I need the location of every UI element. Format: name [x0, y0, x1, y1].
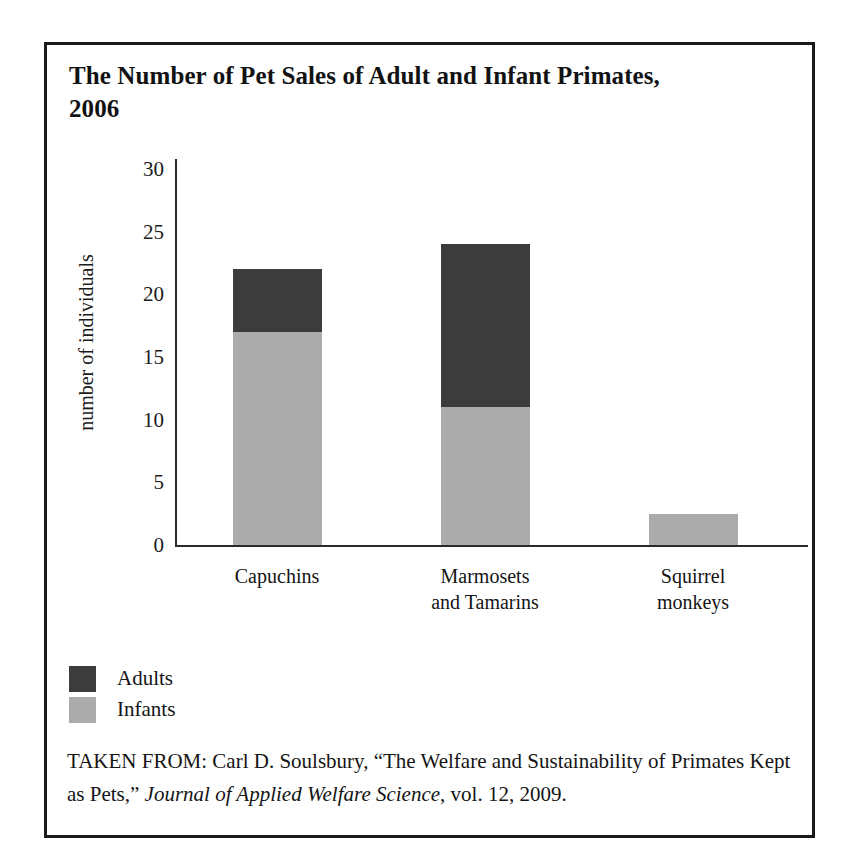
stacked-bar[interactable]	[233, 269, 322, 545]
stacked-bar[interactable]	[649, 514, 738, 545]
legend-item: Adults	[69, 663, 175, 694]
legend-label: Infants	[117, 697, 175, 722]
x-axis-line	[175, 545, 808, 547]
y-tick-label: 25	[143, 221, 164, 242]
y-tick-label: 10	[143, 409, 164, 430]
bar-segment-infants[interactable]	[441, 407, 530, 545]
bar-segment-infants[interactable]	[233, 332, 322, 545]
legend-swatch-adults	[69, 666, 96, 692]
y-axis-title: number of individuals	[75, 213, 98, 473]
bar-segment-adults[interactable]	[441, 244, 530, 407]
stacked-bar[interactable]	[441, 244, 530, 545]
figure-frame: The Number of Pet Sales of Adult and Inf…	[44, 42, 815, 838]
y-tick-label: 0	[154, 535, 165, 556]
bar-group: Marmosetsand Tamarins	[405, 169, 565, 545]
bar-segment-adults[interactable]	[233, 269, 322, 332]
y-tick-label: 20	[143, 284, 164, 305]
source-citation: TAKEN FROM: Carl D. Soulsbury, “The Welf…	[67, 745, 795, 811]
x-axis-category-label: Capuchins	[183, 563, 371, 589]
bar-group: Capuchins	[197, 169, 357, 545]
chart-legend: AdultsInfants	[69, 663, 175, 725]
axes: 051015202530 CapuchinsMarmosetsand Tamar…	[175, 159, 812, 555]
x-axis-category-label: Marmosetsand Tamarins	[391, 563, 579, 615]
bars-layer: CapuchinsMarmosetsand TamarinsSquirrelmo…	[177, 169, 808, 545]
legend-item: Infants	[69, 694, 175, 725]
y-tick-label: 5	[154, 472, 165, 493]
bar-segment-infants[interactable]	[649, 514, 738, 545]
legend-swatch-infants	[69, 697, 96, 723]
y-tick-label: 15	[143, 347, 164, 368]
x-axis-category-label: Squirrelmonkeys	[599, 563, 787, 615]
source-journal: Journal of Applied Welfare Science	[145, 782, 441, 806]
bar-group: Squirrelmonkeys	[613, 169, 773, 545]
plot-area: number of individuals 051015202530 Capuc…	[47, 149, 812, 569]
source-suffix: , vol. 12, 2009.	[440, 782, 567, 806]
legend-label: Adults	[117, 666, 173, 691]
y-tick-label: 30	[143, 159, 164, 180]
chart-title: The Number of Pet Sales of Adult and Inf…	[69, 59, 669, 125]
